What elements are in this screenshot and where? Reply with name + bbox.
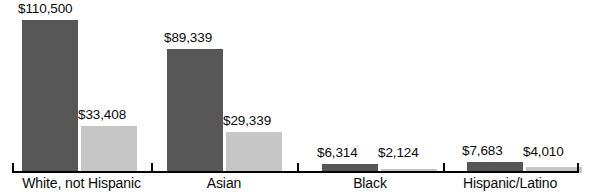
category-label-hispanic-latino: Hispanic/Latino (443, 174, 577, 193)
axis-tick-4 (577, 163, 579, 172)
category-label-black: Black (297, 174, 443, 193)
bar-light-asian (226, 132, 282, 173)
plot-area: $110,500 $33,408 $89,339 $29,339 $6,314 … (0, 0, 591, 173)
category-axis-labels: White, not Hispanic Asian Black Hispanic… (0, 174, 591, 195)
category-label-white-not-hispanic: White, not Hispanic (12, 174, 151, 193)
value-label-light-white-not-hispanic: $33,408 (78, 108, 126, 122)
value-label-light-asian: $29,339 (223, 114, 271, 128)
value-label-light-hispanic-latino: $4,010 (523, 145, 564, 159)
value-label-dark-white-not-hispanic: $110,500 (18, 2, 73, 16)
bar-dark-white-not-hispanic (22, 20, 78, 173)
value-label-dark-black: $6,314 (317, 146, 358, 160)
value-label-light-black: $2,124 (378, 146, 419, 160)
axis-tick-1 (151, 163, 153, 172)
value-label-dark-asian: $89,339 (164, 31, 212, 45)
bar-chart: $110,500 $33,408 $89,339 $29,339 $6,314 … (0, 0, 591, 195)
axis-tick-2 (297, 163, 299, 172)
axis-tick-3 (443, 163, 445, 172)
axis-tick-0 (12, 163, 14, 172)
bar-dark-asian (167, 49, 223, 173)
value-label-dark-hispanic-latino: $7,683 (462, 144, 503, 158)
category-label-asian: Asian (151, 174, 297, 193)
axis-baseline (12, 171, 579, 173)
bar-light-white-not-hispanic (81, 126, 137, 173)
